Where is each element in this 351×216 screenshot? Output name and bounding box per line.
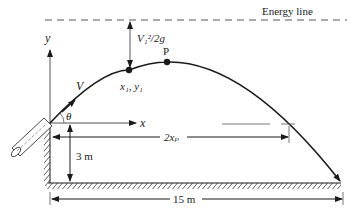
point-1-marker [126, 67, 132, 73]
point-1-label: x₁, y₁ [119, 80, 143, 92]
twice-xp-label: 2xₚ [164, 131, 179, 143]
x-axis-label: x [139, 116, 146, 130]
angle-arc [60, 113, 64, 123]
height-label: 3 m [76, 150, 93, 162]
peak-point-label: P [163, 45, 169, 57]
velocity-head-label: V₁²/2g [137, 32, 165, 44]
ground-hatch [45, 183, 341, 189]
projectile-diagram: Energy line y x θ V V₁²/2g x₁, y₁ P 3 m … [0, 0, 351, 216]
y-axis-label: y [44, 31, 51, 45]
energy-line-label: Energy line [262, 5, 313, 17]
trajectory-curve [50, 62, 340, 181]
range-label: 15 m [173, 193, 196, 205]
angle-label: θ [66, 110, 72, 122]
peak-point-marker [164, 59, 170, 65]
